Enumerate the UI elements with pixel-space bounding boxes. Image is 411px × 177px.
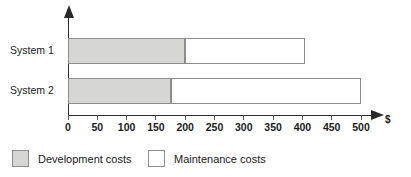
- x-tick-label: 450: [323, 121, 341, 133]
- development-swatch-icon: [12, 150, 29, 167]
- x-tick-label: 300: [235, 121, 253, 133]
- x-tick-mark: [97, 115, 98, 120]
- x-axis-line: [68, 115, 373, 116]
- x-tick-label: 500: [352, 121, 370, 133]
- bar-segment-development: [68, 78, 171, 104]
- bar-segment-maintenance: [171, 78, 361, 104]
- x-tick-mark: [185, 115, 186, 120]
- stacked-bar-chart: $ 050100150200250300350400450500 System …: [0, 0, 411, 177]
- x-tick-mark: [361, 115, 362, 120]
- x-tick-mark: [68, 115, 69, 120]
- x-tick-mark: [302, 115, 303, 120]
- legend-label-development: Development costs: [38, 153, 132, 165]
- legend-label-maintenance: Maintenance costs: [174, 153, 266, 165]
- bar-row: [0, 38, 411, 64]
- x-tick-mark: [214, 115, 215, 120]
- x-axis-unit-label: $: [385, 114, 391, 125]
- x-tick-mark: [126, 115, 127, 120]
- chart-legend: Development costs Maintenance costs: [0, 145, 411, 177]
- maintenance-swatch-icon: [148, 150, 165, 167]
- legend-item-maintenance: Maintenance costs: [148, 150, 266, 167]
- x-tick-label: 250: [206, 121, 224, 133]
- x-tick-mark: [273, 115, 274, 120]
- bar-segment-maintenance: [185, 38, 305, 64]
- x-tick-mark: [243, 115, 244, 120]
- bar-row: [0, 78, 411, 104]
- x-tick-label: 150: [147, 121, 165, 133]
- x-tick-mark: [155, 115, 156, 120]
- legend-item-development: Development costs: [12, 150, 132, 167]
- plot-area: $ 050100150200250300350400450500 System …: [0, 0, 411, 140]
- x-tick-label: 400: [294, 121, 312, 133]
- x-axis-arrow-icon: [371, 110, 384, 120]
- bar-segment-development: [68, 38, 185, 64]
- x-tick-label: 350: [264, 121, 282, 133]
- x-tick-label: 50: [91, 121, 103, 133]
- x-tick-mark: [331, 115, 332, 120]
- y-axis-arrow-icon: [64, 5, 74, 18]
- x-tick-label: 200: [176, 121, 194, 133]
- x-tick-label: 100: [118, 121, 136, 133]
- x-tick-label: 0: [65, 121, 71, 133]
